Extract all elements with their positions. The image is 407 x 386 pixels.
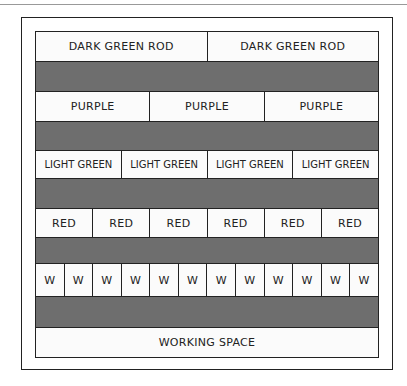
white-rod: W	[350, 264, 378, 296]
purple-rod-row: PURPLEPURPLEPURPLE	[36, 92, 378, 122]
red-rod: RED	[150, 209, 207, 237]
working-space-row: WORKING SPACE	[36, 328, 378, 357]
light-green-rod: LIGHT GREEN	[293, 151, 378, 178]
gray-separator	[36, 238, 378, 264]
gray-separator	[36, 62, 378, 92]
purple-rod: PURPLE	[36, 92, 150, 121]
dark-green-rod-row: DARK GREEN RODDARK GREEN ROD	[36, 32, 378, 62]
gray-separator	[36, 122, 378, 151]
gray-separator	[36, 179, 378, 209]
gray-separator	[36, 297, 378, 328]
white-rod: W	[93, 264, 122, 296]
rod-layout-board: DARK GREEN RODDARK GREEN RODPURPLEPURPLE…	[35, 31, 379, 358]
dark-green-rod: DARK GREEN ROD	[36, 32, 208, 61]
light-green-rod: LIGHT GREEN	[122, 151, 208, 178]
white-rod: W	[122, 264, 151, 296]
white-rod: W	[293, 264, 322, 296]
light-green-rod: LIGHT GREEN	[36, 151, 122, 178]
purple-rod: PURPLE	[150, 92, 264, 121]
red-rod: RED	[93, 209, 150, 237]
red-rod-row: REDREDREDREDREDRED	[36, 209, 378, 238]
red-rod: RED	[322, 209, 378, 237]
white-rod: W	[207, 264, 236, 296]
top-rule	[0, 4, 407, 5]
red-rod: RED	[265, 209, 322, 237]
white-rod-row: WWWWWWWWWWWW	[36, 264, 378, 297]
dark-green-rod: DARK GREEN ROD	[208, 32, 379, 61]
white-rod: W	[150, 264, 179, 296]
red-rod: RED	[36, 209, 93, 237]
red-rod: RED	[208, 209, 265, 237]
white-rod: W	[179, 264, 208, 296]
white-rod: W	[265, 264, 294, 296]
white-rod: W	[322, 264, 351, 296]
white-rod: W	[36, 264, 65, 296]
purple-rod: PURPLE	[265, 92, 378, 121]
light-green-rod: LIGHT GREEN	[208, 151, 294, 178]
white-rod: W	[236, 264, 265, 296]
white-rod: W	[65, 264, 94, 296]
working-space-cell: WORKING SPACE	[36, 328, 378, 357]
light-green-rod-row: LIGHT GREENLIGHT GREENLIGHT GREENLIGHT G…	[36, 151, 378, 179]
